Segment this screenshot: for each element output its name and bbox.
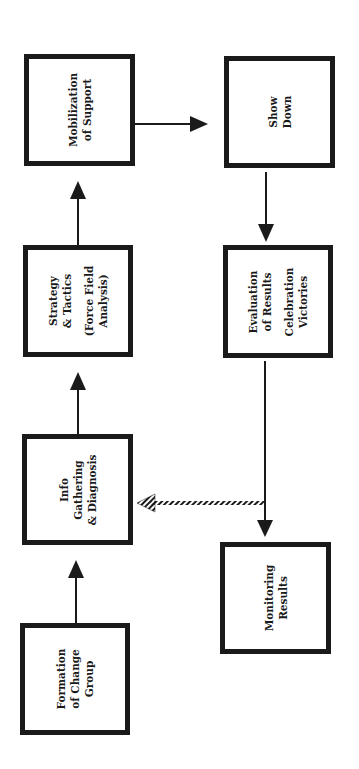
label-line: Show xyxy=(266,96,280,129)
node-info-gathering-and-diagnosis: Info Gathering & Diagnosis xyxy=(22,434,133,545)
label-line: Analysis) xyxy=(96,266,110,337)
node-label: Show Down xyxy=(266,96,294,129)
node-label: Formation of Change Group xyxy=(54,649,96,710)
arrow-strategy-to-mobilization xyxy=(70,181,86,245)
label-line: of Results xyxy=(260,267,274,336)
label-spacer xyxy=(74,266,82,337)
label-line: Formation xyxy=(54,649,68,710)
arrow-feedback-to-info xyxy=(137,494,265,512)
label-line: of Support xyxy=(80,73,94,147)
label-line: Info xyxy=(57,454,71,525)
node-label: Monitoring Results xyxy=(262,565,290,632)
label-line: Monitoring xyxy=(262,565,276,632)
label-line: Down xyxy=(280,96,294,129)
label-line: Evaluation xyxy=(246,267,260,336)
label-line: Victories xyxy=(296,267,310,336)
arrow-info-to-strategy xyxy=(70,372,86,434)
node-strategy-and-tactics: Strategy & Tactics (Force Field Analysis… xyxy=(23,245,133,357)
label-line: of Change xyxy=(68,649,82,710)
label-line: Gathering xyxy=(71,454,85,525)
node-formation-of-change-group: Formation of Change Group xyxy=(20,623,130,735)
label-line: Strategy xyxy=(46,266,60,337)
arrow-formation-to-info xyxy=(68,560,84,623)
node-label: Evaluation of Results Celebration Victor… xyxy=(246,267,310,336)
label-line: Mobilization xyxy=(66,73,80,147)
label-line: & Diagnosis xyxy=(85,454,99,525)
arrow-evaluation-to-monitoring xyxy=(257,361,273,537)
arrow-showdown-to-evaluation xyxy=(258,172,274,242)
label-line: (Force Field xyxy=(82,266,96,337)
label-line: Results xyxy=(276,565,290,632)
node-label: Mobilization of Support xyxy=(66,73,94,147)
label-line: Group xyxy=(82,649,96,710)
node-show-down: Show Down xyxy=(224,56,335,168)
node-mobilization-of-support: Mobilization of Support xyxy=(24,54,135,166)
label-line: & Tactics xyxy=(60,266,74,337)
label-spacer xyxy=(274,267,282,336)
node-monitoring-results: Monitoring Results xyxy=(220,542,331,654)
node-label: Strategy & Tactics (Force Field Analysis… xyxy=(46,266,110,337)
node-label: Info Gathering & Diagnosis xyxy=(57,454,99,525)
arrow-mobilization-to-showdown xyxy=(135,116,208,132)
label-line: Celebration xyxy=(282,267,296,336)
node-evaluation-of-results: Evaluation of Results Celebration Victor… xyxy=(223,245,333,358)
